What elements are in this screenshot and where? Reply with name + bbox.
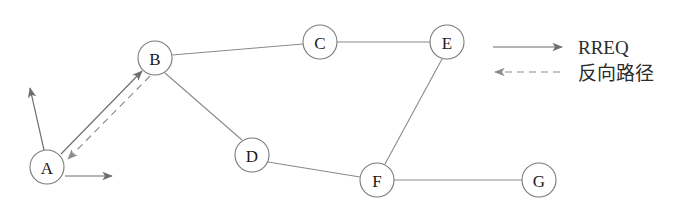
edge-e-f xyxy=(385,59,442,164)
network-diagram-figure: A B C D E F G RREQ xyxy=(0,0,681,210)
node-g[interactable]: G xyxy=(522,163,556,197)
legend-rreq-label: RREQ xyxy=(578,37,629,58)
node-g-label: G xyxy=(533,172,545,191)
node-e[interactable]: E xyxy=(430,25,464,59)
node-a[interactable]: A xyxy=(30,150,64,184)
edge-b-d xyxy=(165,73,242,140)
node-f[interactable]: F xyxy=(360,163,394,197)
node-a-label: A xyxy=(41,159,54,178)
reverse-path-arrows-group xyxy=(68,76,150,159)
reverse-arrow-b-to-a xyxy=(68,76,150,159)
legend-reverse-path-label: 反向路径 xyxy=(578,62,654,84)
node-f-label: F xyxy=(372,172,382,191)
edge-b-c xyxy=(172,44,303,55)
node-c[interactable]: C xyxy=(303,25,337,59)
node-b[interactable]: B xyxy=(138,41,172,75)
legend-item-rreq: RREQ xyxy=(493,37,629,58)
node-d[interactable]: D xyxy=(235,138,269,172)
edge-d-f xyxy=(268,162,360,177)
rreq-arrow-a-upper-left xyxy=(30,88,44,150)
legend: RREQ 反向路径 xyxy=(493,37,654,85)
node-e-label: E xyxy=(442,34,453,53)
node-d-label: D xyxy=(246,147,258,166)
legend-item-reverse-path: 反向路径 xyxy=(495,62,654,84)
edges-group xyxy=(165,42,522,180)
diagram-canvas: A B C D E F G RREQ xyxy=(0,0,681,210)
node-c-label: C xyxy=(314,34,326,53)
node-b-label: B xyxy=(149,50,161,69)
rreq-arrow-a-to-b xyxy=(61,71,142,154)
